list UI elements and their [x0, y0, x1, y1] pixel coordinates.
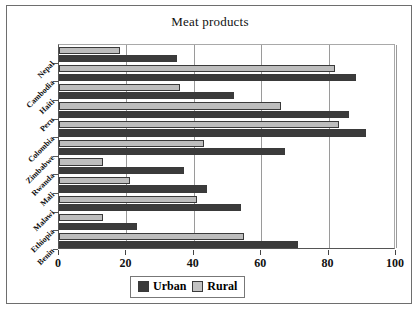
x-tick-0	[58, 250, 59, 255]
bar-urban-malawi	[59, 204, 241, 211]
bar-group	[59, 82, 394, 101]
bar-rural-mali	[59, 177, 130, 184]
bar-group	[59, 213, 394, 232]
bar-rural-zimbabwe	[59, 140, 204, 147]
chart-title: Meat products	[7, 14, 413, 30]
bar-urban-cambodia	[59, 74, 356, 81]
bar-group	[59, 120, 394, 139]
bar-rural-nepal	[59, 47, 120, 54]
x-tick-label-40: 40	[173, 256, 213, 271]
bar-rural-peru	[59, 102, 281, 109]
bar-group	[59, 138, 394, 157]
gridline-100	[396, 45, 397, 248]
bar-rural-rwanda	[59, 158, 103, 165]
bar-urban-mali	[59, 185, 207, 192]
bar-rural-colombia	[59, 121, 339, 128]
bar-rural-cambodia	[59, 65, 335, 72]
x-tick-label-80: 80	[308, 256, 348, 271]
legend-item-urban: Urban	[138, 279, 186, 294]
bar-series-group	[59, 45, 394, 248]
x-tick-40	[193, 250, 194, 255]
bar-rural-benin	[59, 233, 244, 240]
legend-label-urban: Urban	[153, 279, 186, 294]
legend-swatch-urban	[138, 281, 149, 292]
bar-group	[59, 194, 394, 213]
bar-rural-ethiopia	[59, 214, 103, 221]
legend-label-rural: Rural	[207, 279, 237, 294]
bar-urban-haiti	[59, 92, 234, 99]
bar-group	[59, 64, 394, 83]
x-tick-20	[125, 250, 126, 255]
bar-group	[59, 231, 394, 250]
bar-group	[59, 157, 394, 176]
bar-group	[59, 175, 394, 194]
bar-urban-rwanda	[59, 167, 184, 174]
bar-rural-haiti	[59, 84, 180, 91]
plot-area	[58, 44, 395, 249]
x-tick-100	[395, 250, 396, 255]
x-tick-60	[260, 250, 261, 255]
chart-container: Meat products 020406080100 NepalCambodia…	[6, 5, 412, 304]
legend-swatch-rural	[192, 281, 203, 292]
bar-urban-benin	[59, 241, 298, 248]
legend-item-rural: Rural	[192, 279, 237, 294]
x-tick-label-20: 20	[105, 256, 145, 271]
chart-legend: Urban Rural	[130, 276, 245, 298]
bar-group	[59, 101, 394, 120]
x-tick-80	[328, 250, 329, 255]
bar-urban-nepal	[59, 55, 177, 62]
bar-urban-peru	[59, 111, 349, 118]
bar-urban-colombia	[59, 129, 366, 136]
bar-rural-malawi	[59, 196, 197, 203]
bar-urban-zimbabwe	[59, 148, 285, 155]
bar-urban-ethiopia	[59, 223, 137, 230]
x-tick-label-60: 60	[240, 256, 280, 271]
bar-group	[59, 45, 394, 64]
x-tick-label-100: 100	[375, 256, 415, 271]
